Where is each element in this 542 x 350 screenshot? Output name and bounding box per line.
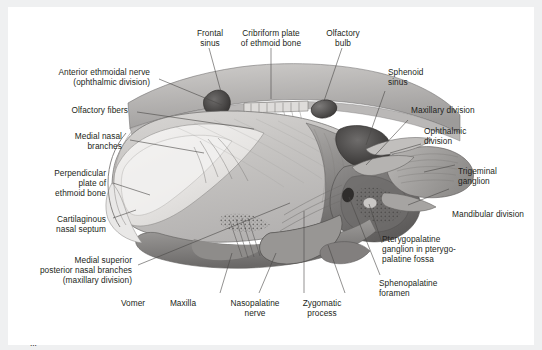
label-medial-nasal-branches: Medial nasal branches — [42, 131, 122, 151]
label-zygomatic-process: Zygomatic process — [291, 298, 353, 318]
label-olfactory-fibers: Olfactory fibers — [30, 105, 128, 115]
figure-caption: ... — [30, 339, 530, 350]
label-sphenoid-sinus: Sphenoid sinus — [388, 67, 452, 87]
label-vomer: Vomer — [108, 298, 158, 308]
label-olfactory-bulb: Olfactory bulb — [313, 28, 373, 48]
label-cribriform-plate: Cribriform plate of ethmoid bone — [223, 28, 319, 48]
label-maxillary-division: Maxillary division — [411, 105, 511, 115]
zygomatic-process-shape — [320, 242, 370, 264]
label-anterior-ethmoidal-nerve: Anterior ethmoidal nerve (ophthalmic div… — [18, 67, 150, 87]
cribriform-plate-shape — [244, 101, 308, 113]
label-nasopalatine-nerve: Nasopalatine nerve — [220, 298, 290, 318]
label-ophthalmic-division: Ophthalmic division — [424, 126, 496, 146]
label-maxilla: Maxilla — [157, 298, 209, 308]
label-trigeminal-ganglion: Trigeminal ganglion — [458, 166, 528, 186]
label-perpendicular-plate: Perpendicular plate of ethmoid bone — [30, 168, 106, 199]
label-sphenopalatine-foramen: Sphenopalatine foramen — [379, 278, 471, 298]
label-medial-superior-posterior: Medial superior posterior nasal branches… — [14, 255, 132, 286]
figure-sheet: Frontal sinus Cribriform plate of ethmoi… — [8, 7, 534, 345]
label-pterygopalatine-ganglion: Pterygopalatine ganglion in pterygo- pal… — [382, 234, 482, 265]
label-mandibular-division: Mandibular division — [452, 209, 542, 219]
label-cartilaginous-septum: Cartilaginous nasal septum — [34, 214, 106, 234]
